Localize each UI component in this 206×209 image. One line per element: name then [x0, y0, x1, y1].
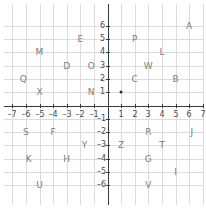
point-label-v: V	[145, 181, 151, 190]
x-axis-tick-label: –2	[75, 111, 84, 119]
y-axis-tick	[106, 52, 110, 53]
point-label-e: E	[77, 35, 83, 44]
x-axis-tick-label: 5	[173, 111, 178, 119]
point-label-z: Z	[118, 141, 124, 150]
x-axis-tick	[148, 104, 149, 108]
x-axis-tick-label: –3	[62, 111, 71, 119]
point-label-l: L	[159, 48, 164, 57]
point-label-q: Q	[20, 74, 27, 83]
y-axis-tick	[106, 66, 110, 67]
x-axis-tick-label: 1	[118, 111, 123, 119]
x-axis-tick-label: 7	[200, 111, 205, 119]
point-label-m: M	[36, 48, 44, 57]
x-axis-tick-label: 3	[145, 111, 150, 119]
x-axis-tick	[26, 104, 27, 108]
x-axis-tick-label: 6	[186, 111, 191, 119]
x-axis-tick-label: –5	[35, 111, 44, 119]
point-label-i: I	[174, 168, 177, 177]
plotted-point-marker	[120, 91, 123, 94]
x-axis-tick	[176, 104, 177, 108]
x-axis	[4, 106, 203, 107]
x-axis-tick	[67, 104, 68, 108]
point-label-p: P	[132, 35, 137, 44]
point-label-w: W	[144, 61, 153, 70]
point-label-d: D	[63, 61, 70, 70]
y-axis-tick	[106, 79, 110, 80]
y-axis-tick	[106, 26, 110, 27]
point-label-a: A	[186, 21, 192, 30]
y-axis-tick	[106, 132, 110, 133]
point-label-c: C	[132, 74, 138, 83]
point-label-o: O	[88, 61, 95, 70]
y-axis	[108, 4, 109, 205]
y-axis-tick-label: –4	[97, 155, 105, 163]
point-label-n: N	[88, 88, 95, 97]
point-label-h: H	[63, 154, 70, 163]
y-axis-tick-label: 3	[97, 62, 105, 70]
y-axis-tick-label: –1	[97, 115, 105, 123]
y-axis-tick	[106, 92, 110, 93]
y-axis-tick-label: –3	[97, 141, 105, 149]
point-label-f: F	[51, 128, 56, 137]
x-axis-tick-label: –7	[7, 111, 16, 119]
y-axis-tick	[106, 159, 110, 160]
y-axis-tick-label: –5	[97, 168, 105, 176]
y-axis-tick-label: 4	[97, 48, 105, 56]
x-axis-tick	[162, 104, 163, 108]
point-label-t: T	[159, 141, 165, 150]
point-label-k: K	[26, 154, 32, 163]
x-axis-tick	[189, 104, 190, 108]
x-axis-tick-label: –6	[21, 111, 30, 119]
y-axis-tick	[106, 119, 110, 120]
x-axis-tick	[135, 104, 136, 108]
point-label-s: S	[23, 128, 29, 137]
x-axis-tick-label: 4	[159, 111, 164, 119]
point-label-b: B	[172, 74, 178, 83]
y-axis-tick	[106, 185, 110, 186]
x-axis-tick	[80, 104, 81, 108]
x-axis-tick-label: 2	[132, 111, 137, 119]
y-axis-tick-label: 2	[97, 75, 105, 83]
x-axis-tick	[121, 104, 122, 108]
x-axis-tick-label: –4	[48, 111, 57, 119]
coordinate-plane: –7–6–5–4–3–2–11234567654321–1–2–3–4–5–6A…	[0, 0, 206, 209]
y-axis-tick-label: 5	[97, 35, 105, 43]
x-axis-tick	[203, 104, 204, 108]
x-axis-tick	[53, 104, 54, 108]
x-axis-tick	[12, 104, 13, 108]
y-axis-tick	[106, 39, 110, 40]
x-axis-tick	[40, 104, 41, 108]
y-axis-tick-label: –2	[97, 128, 105, 136]
point-label-u: U	[36, 181, 43, 190]
point-label-r: R	[145, 128, 151, 137]
y-axis-tick-label: 1	[97, 88, 105, 96]
x-axis-tick	[94, 104, 95, 108]
y-axis-tick	[106, 145, 110, 146]
point-label-y: Y	[82, 141, 88, 150]
y-axis-tick-label: 6	[97, 22, 105, 30]
y-axis-tick	[106, 172, 110, 173]
y-axis-tick-label: –6	[97, 181, 105, 189]
point-label-g: G	[145, 154, 152, 163]
point-label-x: X	[36, 88, 42, 97]
point-label-j: J	[190, 128, 193, 137]
